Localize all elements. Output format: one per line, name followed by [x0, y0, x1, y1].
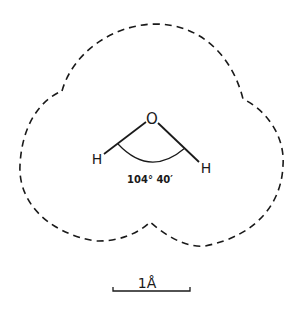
atom-oxygen: O — [146, 110, 158, 128]
atom-hydrogen-right: H — [201, 160, 212, 176]
bond-right — [158, 123, 199, 162]
atom-hydrogen-left: H — [92, 151, 103, 167]
water-molecule-diagram: O H H 104° 40′ 1Å — [0, 0, 300, 316]
molecule-outline — [20, 24, 283, 246]
bond-angle-arc — [118, 144, 185, 162]
bond-left — [104, 122, 146, 154]
scale-bar-label: 1Å — [138, 275, 157, 291]
bond-angle-label: 104° 40′ — [127, 174, 173, 185]
